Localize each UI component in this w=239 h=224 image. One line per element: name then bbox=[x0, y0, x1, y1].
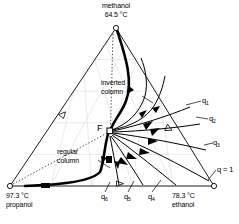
methanol-component-name: methanol bbox=[79, 2, 153, 11]
inverted-column-line-2: column bbox=[101, 88, 125, 97]
q-label-q6-sub: 6 bbox=[105, 196, 108, 202]
inverted-column-line-1: inverted bbox=[101, 79, 125, 88]
vertex-markers bbox=[7, 25, 216, 188]
q-label-q2: q2 bbox=[209, 115, 216, 124]
q-label-q3-sub: 3 bbox=[217, 142, 220, 148]
feed-point-label: F bbox=[97, 124, 102, 133]
regular-column-line-1: regular bbox=[57, 148, 79, 157]
q-label-q4-sub: 4 bbox=[152, 196, 155, 202]
annotation-regular-column: regular column bbox=[57, 148, 79, 165]
vertex-label-methanol: methanol 64.5 °C bbox=[79, 2, 153, 19]
q-label-q-equals-one: q = 1 bbox=[217, 166, 233, 175]
propanol-temperature: 97.3 °C bbox=[6, 192, 70, 201]
q-label-q2-sub: 2 bbox=[213, 118, 216, 124]
methanol-temperature: 64.5 °C bbox=[79, 11, 153, 20]
q-label-q5-sub: 5 bbox=[128, 196, 131, 202]
q-label-q6: q6 bbox=[101, 193, 108, 202]
propanol-component-name: propanol bbox=[6, 201, 70, 210]
q-label-q1-sub: 1 bbox=[206, 100, 209, 106]
ethanol-component-name: ethanol bbox=[172, 201, 236, 210]
q-curve-arrows bbox=[106, 121, 160, 169]
q-label-q3: q3 bbox=[213, 139, 220, 148]
diagram-canvas bbox=[0, 0, 239, 224]
q-label-q4: q4 bbox=[148, 193, 155, 202]
feed-point-marker bbox=[107, 128, 113, 134]
vertex-label-propanol: 97.3 °C propanol bbox=[6, 192, 70, 209]
ethanol-temperature: 78.3 °C bbox=[172, 192, 236, 201]
regular-column-line-2: column bbox=[57, 157, 79, 166]
q-label-q1: q1 bbox=[202, 97, 209, 106]
ternary-phase-diagram: methanol 64.5 °C 97.3 °C propanol 78.3 °… bbox=[0, 0, 239, 224]
q-label-q5: q5 bbox=[124, 193, 131, 202]
q-curve-fan bbox=[110, 107, 209, 185]
q-label-leaders bbox=[105, 101, 216, 192]
annotation-inverted-column: inverted column bbox=[101, 79, 125, 96]
vertex-label-ethanol: 78.3 °C ethanol bbox=[172, 192, 236, 209]
